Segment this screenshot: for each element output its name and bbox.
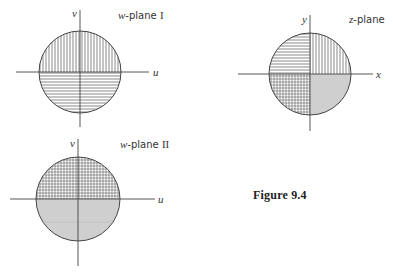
z-quadrant-2-horizontal-hatch [269,33,310,74]
w-plane-1-panel: u v w-plane I [16,7,164,127]
w1-u-axis-label: u [153,66,159,78]
figure-caption: Figure 9.4 [253,188,307,203]
w2-v-axis-label: v [70,137,75,149]
w2-plane-title: w-plane II [120,138,170,150]
z-quadrant-1-vertical-hatch [310,33,351,74]
w2-u-axis-label: u [158,193,164,205]
z-plane-title: z-plane [348,13,385,25]
figure-diagram: u v w-plane I x y z-plane u v w-plane II [0,0,393,277]
z-y-axis-label: y [301,13,307,25]
z-plane-panel: x y z-plane [238,13,385,131]
z-x-axis-label: x [375,68,381,80]
z-quadrant-4-gray-shaded [310,74,351,115]
w-plane-2-panel: u v w-plane II [10,137,170,266]
w1-plane-title: w-plane I [118,9,164,21]
z-quadrant-3-cross-hatch [269,74,310,115]
w1-v-axis-label: v [72,7,77,19]
